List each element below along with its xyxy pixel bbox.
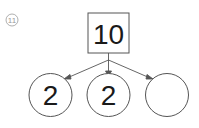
part-circle-1: 2 xyxy=(29,74,72,117)
part-2-value: 2 xyxy=(101,80,117,111)
part-1-value: 2 xyxy=(43,80,59,111)
part-circle-3-blank[interactable] xyxy=(146,74,189,117)
arrowhead-right-icon xyxy=(146,75,153,80)
whole-box: 10 xyxy=(88,13,129,53)
arrowhead-left-icon xyxy=(64,75,71,80)
number-bond-diagram: 11 10 2 2 xyxy=(0,0,199,128)
problem-number: 11 xyxy=(8,16,17,25)
whole-value: 10 xyxy=(93,19,124,50)
problem-number-badge: 11 xyxy=(6,14,18,26)
part-circle-2: 2 xyxy=(87,74,130,117)
